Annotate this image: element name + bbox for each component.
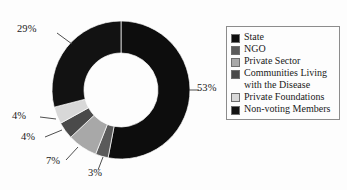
legend-item[interactable]: NGO (231, 43, 336, 55)
legend-item[interactable]: Communities Living with the Disease (231, 67, 336, 90)
legend-swatch-icon (231, 106, 240, 115)
legend-item[interactable]: Private Foundations (231, 91, 336, 103)
leader-line-non-voting (57, 33, 72, 44)
legend-swatch-icon (231, 46, 240, 55)
legend-item-label: Non-voting Members (244, 103, 330, 115)
data-label-non-voting: 29% (17, 23, 37, 34)
data-label-state: 53% (197, 82, 217, 93)
leader-line-private-foundations (40, 117, 56, 119)
donut-chart: 53% 29% 4% 4% 7% 3% (0, 0, 220, 190)
legend-item[interactable]: Private Sector (231, 55, 336, 67)
legend-item-label: Communities Living with the Disease (244, 67, 327, 90)
leader-line-private-sector (66, 147, 78, 160)
legend-item-label: NGO (244, 43, 266, 55)
chart-page: 53% 29% 4% 4% 7% 3% StateNGOPrivate Sect… (0, 0, 347, 190)
donut-slice[interactable] (52, 21, 121, 107)
legend-swatch-icon (231, 58, 240, 67)
legend-item-label: State (244, 31, 264, 43)
data-label-communities: 4% (21, 131, 35, 142)
legend-item-label: Private Sector (244, 55, 300, 67)
data-label-private-foundations: 4% (12, 110, 26, 121)
legend-item-label: Private Foundations (244, 91, 324, 103)
donut-slice-group (52, 21, 190, 159)
data-label-private-sector: 7% (46, 155, 60, 166)
legend-item[interactable]: State (231, 31, 336, 43)
chart-legend: StateNGOPrivate SectorCommunities Living… (226, 26, 340, 120)
leader-line-communities (45, 130, 62, 137)
legend-swatch-icon (231, 93, 240, 102)
legend-swatch-icon (231, 70, 240, 79)
legend-item[interactable]: Non-voting Members (231, 103, 336, 115)
data-label-ngo: 3% (88, 167, 102, 178)
legend-swatch-icon (231, 34, 240, 43)
